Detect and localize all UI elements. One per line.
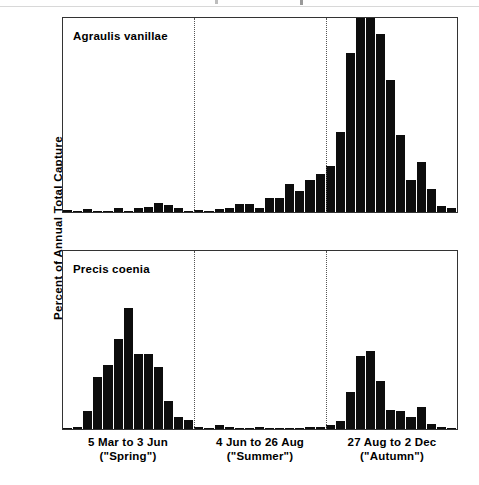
bar xyxy=(275,198,285,212)
bar xyxy=(225,208,235,212)
season-divider xyxy=(194,251,195,429)
bar xyxy=(295,428,305,429)
x-axis-season-captions: 5 Mar to 3 Jun("Spring")4 Jun to 26 Aug(… xyxy=(62,436,458,484)
bar xyxy=(235,204,245,212)
bar xyxy=(124,308,134,429)
bar xyxy=(114,339,124,429)
bar xyxy=(417,162,427,212)
bar xyxy=(154,367,164,430)
bar xyxy=(73,211,83,212)
species-label-top: Agraulis vanillae xyxy=(73,30,168,42)
bar xyxy=(245,204,255,212)
bar xyxy=(164,401,174,430)
season-date-range: 4 Jun to 26 Aug xyxy=(194,436,326,448)
bar xyxy=(63,210,73,212)
bar xyxy=(194,427,204,429)
bar xyxy=(204,211,214,212)
figure-canvas: Percent of Annual Total Capture Agraulis… xyxy=(0,0,479,485)
bar xyxy=(285,184,295,212)
bar xyxy=(204,428,214,430)
bar xyxy=(144,207,154,212)
season-name: ("Spring") xyxy=(62,450,194,462)
bar xyxy=(134,208,144,212)
bar xyxy=(386,80,396,212)
bar xyxy=(63,428,73,429)
panel-precis-coenia: Precis coenia 051015 xyxy=(62,250,458,430)
bar xyxy=(275,428,285,429)
bar xyxy=(255,208,265,212)
bar xyxy=(336,132,346,212)
bar xyxy=(93,377,103,430)
bar xyxy=(295,191,305,212)
bar xyxy=(366,18,376,212)
bar xyxy=(316,427,326,430)
bar xyxy=(174,417,184,429)
bar xyxy=(215,425,225,429)
bar xyxy=(427,424,437,429)
bar xyxy=(245,428,255,429)
bar xyxy=(346,53,356,212)
bar xyxy=(316,174,326,212)
cropped-edge-artifact-3 xyxy=(300,0,303,5)
cropped-edge-artifact-2 xyxy=(215,0,218,4)
panel-agraulis-vanillae: Agraulis vanillae 051015 xyxy=(62,17,458,213)
plot-area-bottom: Precis coenia 051015 xyxy=(63,251,457,429)
bar xyxy=(437,427,447,430)
bar xyxy=(225,427,235,429)
bar xyxy=(265,198,275,212)
bar xyxy=(326,166,336,212)
bar xyxy=(406,180,416,212)
bar xyxy=(305,427,315,429)
bar xyxy=(366,351,376,429)
bar xyxy=(417,407,427,429)
bar xyxy=(114,208,124,212)
species-label-bottom: Precis coenia xyxy=(73,263,150,275)
season-name: ("Autumn") xyxy=(326,450,458,462)
bar xyxy=(346,392,356,430)
bar xyxy=(73,427,83,430)
bar xyxy=(376,34,386,212)
bar xyxy=(103,365,113,430)
bar xyxy=(184,420,194,429)
bar xyxy=(174,208,184,212)
bar xyxy=(376,381,386,430)
bar xyxy=(134,354,144,429)
bar xyxy=(235,428,245,429)
bar xyxy=(184,211,194,212)
cropped-edge-artifact xyxy=(0,6,479,7)
season-caption: 5 Mar to 3 Jun("Spring") xyxy=(62,436,194,462)
bar xyxy=(406,417,416,430)
season-date-range: 5 Mar to 3 Jun xyxy=(62,436,194,448)
bar xyxy=(336,421,346,430)
season-divider xyxy=(194,18,195,212)
bar xyxy=(285,428,295,429)
bar xyxy=(447,208,457,212)
bar xyxy=(396,135,406,212)
bar xyxy=(427,189,437,212)
bar xyxy=(154,203,164,212)
bar xyxy=(265,428,275,430)
season-divider xyxy=(326,18,327,212)
bar xyxy=(305,180,315,212)
season-name: ("Summer") xyxy=(194,450,326,462)
bar xyxy=(83,411,93,429)
bar xyxy=(356,356,366,430)
season-caption: 4 Jun to 26 Aug("Summer") xyxy=(194,436,326,462)
season-date-range: 27 Aug to 2 Dec xyxy=(326,436,458,448)
bar xyxy=(326,425,336,429)
bar xyxy=(356,18,366,212)
bar xyxy=(255,427,265,429)
bar xyxy=(215,209,225,212)
season-divider xyxy=(326,251,327,429)
bar xyxy=(396,411,406,429)
bar xyxy=(83,209,93,212)
bar xyxy=(386,410,396,429)
season-caption: 27 Aug to 2 Dec("Autumn") xyxy=(326,436,458,462)
bar xyxy=(194,210,204,212)
bar xyxy=(144,354,154,430)
plot-area-top: Agraulis vanillae 051015 xyxy=(63,18,457,212)
bar xyxy=(103,211,113,212)
bar xyxy=(124,211,134,212)
bar xyxy=(437,206,447,212)
bar xyxy=(447,428,457,429)
